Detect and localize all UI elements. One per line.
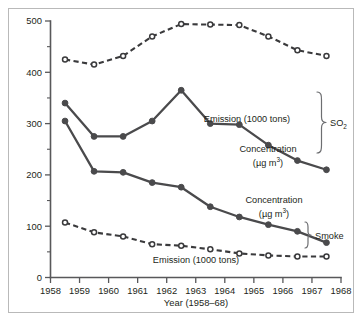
series-line-so2-emission-1000-tons [65, 24, 326, 65]
data-point-so2-concentration-g-m [295, 158, 301, 164]
annotation-smoke-concentration: Concentration [245, 195, 302, 205]
data-point-smoke-concentration-g-m [91, 168, 97, 174]
data-point-so2-concentration-g-m [324, 167, 330, 173]
data-point-so2-emission-1000-tons [121, 53, 126, 58]
x-axis-tick-labels: 1958195919601961196219631964196519661967… [40, 285, 351, 296]
x-tick-label: 1962 [156, 285, 177, 296]
axes-group: 0100200300400500 19581959196019611962196… [26, 15, 351, 295]
data-point-so2-concentration-g-m [149, 118, 155, 124]
data-point-so2-emission-1000-tons [92, 62, 97, 67]
data-series-layer [62, 22, 329, 259]
data-point-so2-emission-1000-tons [179, 22, 184, 27]
data-point-smoke-concentration-g-m [236, 214, 242, 220]
data-point-smoke-emission-1000-tons [295, 254, 300, 259]
series-so2-concentration-g-m [62, 87, 329, 172]
data-point-so2-emission-1000-tons [266, 34, 271, 39]
brace-group [305, 92, 326, 248]
data-point-so2-emission-1000-tons [237, 23, 242, 28]
smoke-units-tail: ) [286, 209, 289, 219]
data-point-so2-concentration-g-m [178, 87, 184, 93]
annotation-so2-concentration-units: (µg m3) [253, 156, 283, 167]
group-so2-head: SO [330, 118, 343, 128]
chart-canvas: 0100200300400500 19581959196019611962196… [0, 0, 362, 332]
x-tick-label: 1961 [127, 285, 148, 296]
data-point-smoke-emission-1000-tons [150, 242, 155, 247]
data-point-smoke-concentration-g-m [207, 204, 213, 210]
y-tick-label: 0 [37, 272, 42, 283]
smoke-units-head: (µg m [259, 209, 283, 219]
y-tick-label: 300 [26, 118, 42, 129]
data-point-smoke-emission-1000-tons [121, 234, 126, 239]
annotation-so2-concentration: Concentration [239, 144, 296, 154]
x-tick-label: 1968 [331, 285, 352, 296]
y-axis-tick-labels: 0100200300400500 [26, 15, 42, 283]
annotation-smoke-concentration-units: (µg m3) [259, 207, 289, 218]
x-axis-ticks [51, 278, 342, 284]
y-tick-label: 200 [26, 169, 42, 180]
data-point-smoke-concentration-g-m [265, 222, 271, 228]
data-point-smoke-emission-1000-tons [63, 220, 68, 225]
y-axis-ticks [45, 21, 51, 278]
x-tick-label: 1965 [243, 285, 264, 296]
data-point-so2-concentration-g-m [120, 134, 126, 140]
data-point-smoke-emission-1000-tons [266, 253, 271, 258]
y-tick-label: 500 [26, 15, 42, 26]
data-point-so2-emission-1000-tons [208, 22, 213, 27]
so2-units-head: (µg m [253, 158, 277, 168]
y-tick-label: 100 [26, 221, 42, 232]
figure-container: 0100200300400500 19581959196019611962196… [0, 0, 362, 332]
data-point-so2-concentration-g-m [91, 134, 97, 140]
series-smoke-emission-1000-tons [63, 220, 329, 259]
x-tick-label: 1960 [98, 285, 119, 296]
data-point-smoke-concentration-g-m [295, 228, 301, 234]
data-point-smoke-concentration-g-m [324, 240, 330, 246]
data-point-so2-concentration-g-m [62, 100, 68, 106]
data-point-so2-emission-1000-tons [150, 34, 155, 39]
data-point-so2-emission-1000-tons [63, 57, 68, 62]
annotation-group-so2: SO2 [330, 118, 347, 130]
x-tick-label: 1967 [302, 285, 323, 296]
data-point-smoke-concentration-g-m [178, 184, 184, 190]
x-axis-title: Year (1958–68) [164, 297, 228, 308]
so2-units-tail: ) [280, 158, 283, 168]
annotation-smoke-emission: Emission (1000 tons) [153, 255, 239, 265]
brace-so2 [317, 92, 326, 153]
data-point-smoke-concentration-g-m [149, 180, 155, 186]
data-point-smoke-emission-1000-tons [208, 247, 213, 252]
x-tick-label: 1964 [214, 285, 235, 296]
x-tick-label: 1958 [40, 285, 61, 296]
data-point-so2-emission-1000-tons [295, 48, 300, 53]
x-tick-label: 1966 [272, 285, 293, 296]
data-point-smoke-concentration-g-m [120, 169, 126, 175]
series-line-smoke-emission-1000-tons [65, 223, 326, 257]
group-so2-sub: 2 [343, 123, 347, 130]
data-point-smoke-emission-1000-tons [324, 254, 329, 259]
data-point-so2-emission-1000-tons [324, 53, 329, 58]
data-point-smoke-concentration-g-m [62, 118, 68, 124]
series-so2-emission-1000-tons [63, 22, 329, 68]
data-point-smoke-emission-1000-tons [92, 230, 97, 235]
data-point-smoke-emission-1000-tons [179, 243, 184, 248]
series-line-so2-concentration-g-m [65, 90, 326, 170]
series-line-smoke-concentration-g-m [65, 121, 326, 243]
x-tick-label: 1963 [185, 285, 206, 296]
y-tick-label: 400 [26, 67, 42, 78]
x-tick-label: 1959 [69, 285, 90, 296]
annotation-group-smoke: Smoke [315, 231, 344, 241]
annotation-so2-emission: Emission (1000 tons) [204, 114, 290, 124]
